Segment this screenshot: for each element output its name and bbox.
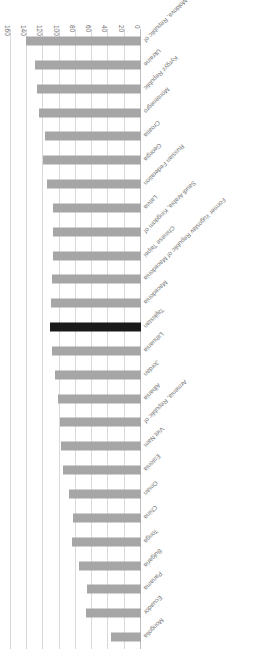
bar [72, 537, 141, 546]
bar [79, 561, 141, 570]
bar-row [11, 172, 141, 196]
bar-row [11, 101, 141, 125]
bar [73, 513, 141, 522]
category-label: China [143, 504, 160, 521]
category-label: Albania [143, 382, 163, 402]
category-label: Ecuador [143, 595, 165, 617]
bar-rows [11, 29, 141, 649]
category-label: Jordan [143, 359, 162, 378]
category-label: Macedonia [143, 279, 170, 306]
bar-row [11, 577, 141, 601]
bar-row [11, 506, 141, 530]
bar-row [11, 625, 141, 649]
bar [111, 633, 141, 642]
bar [53, 203, 141, 212]
category-label: Estonia [143, 453, 163, 473]
bar-row [11, 291, 141, 315]
bar-row [11, 411, 141, 435]
value-tick-label: 0 [134, 25, 141, 29]
bar [87, 585, 141, 594]
category-label: Georgia [143, 142, 164, 163]
plot-area [11, 29, 141, 649]
value-tick-label: 140 [20, 25, 27, 36]
bar [60, 418, 141, 427]
bar-row [11, 268, 141, 292]
value-tick-label: 20 [118, 25, 125, 32]
bar [53, 251, 141, 260]
bar [47, 180, 141, 189]
value-tick-label: 40 [102, 25, 109, 32]
bar [86, 609, 141, 618]
category-label: Tajikistan [143, 307, 166, 330]
bar-row [11, 339, 141, 363]
bar [44, 156, 142, 165]
bar [39, 108, 141, 117]
bar [52, 275, 141, 284]
bar [63, 466, 141, 475]
bar-row [11, 601, 141, 625]
bar [55, 370, 141, 379]
category-label: Moldova, Republic of [143, 0, 190, 44]
bar [58, 394, 141, 403]
bar [26, 36, 141, 45]
bar-row [11, 220, 141, 244]
bar [52, 346, 141, 355]
category-label: Lithuania [143, 331, 166, 354]
bar [69, 490, 141, 499]
bar-row [11, 554, 141, 578]
bar-row [11, 363, 141, 387]
category-label: Bulgaria [143, 547, 164, 568]
bar-row [11, 196, 141, 220]
bar-row [11, 148, 141, 172]
bar-row [11, 458, 141, 482]
bar [50, 323, 141, 332]
category-label: Tonga [143, 528, 160, 545]
bar-row [11, 124, 141, 148]
value-tick-label: 100 [53, 25, 60, 36]
bar-row [11, 315, 141, 339]
category-label: Latvia [143, 194, 160, 211]
bar-row [11, 244, 141, 268]
bar [37, 84, 141, 93]
value-tick-label: 160 [4, 25, 11, 36]
category-label: Armenia, Republic of [143, 379, 189, 425]
chart-figure: 020406080100120140160 MongoliaEcuadorPan… [0, 0, 257, 669]
category-label: Mongolia [143, 617, 166, 640]
bar [53, 227, 141, 236]
category-label: Oman [143, 480, 160, 497]
category-label: Panama [143, 571, 165, 593]
value-tick-label: 60 [85, 25, 92, 32]
value-tick-label: 120 [37, 25, 44, 36]
value-tick-label: 80 [69, 25, 76, 32]
bar-row [11, 530, 141, 554]
bar [35, 60, 141, 69]
category-label: Croatia [143, 120, 162, 139]
bar [45, 132, 141, 141]
bar-row [11, 434, 141, 458]
bar-row [11, 77, 141, 101]
category-label: Viet Nam [143, 426, 166, 449]
bar-row [11, 387, 141, 411]
category-label: Ukraine [143, 47, 163, 67]
bar-row [11, 482, 141, 506]
bar [51, 299, 141, 308]
bar-row [11, 53, 141, 77]
bar [61, 442, 141, 451]
bar-row [11, 29, 141, 53]
bar-chart: 020406080100120140160 MongoliaEcuadorPan… [0, 0, 257, 669]
